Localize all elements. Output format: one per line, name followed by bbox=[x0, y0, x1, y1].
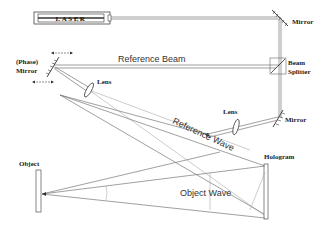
phase-mirror bbox=[46, 57, 59, 77]
object-label: Object bbox=[19, 160, 40, 168]
lens-left-label: Lens bbox=[97, 78, 112, 86]
object-wave-label: Object Wave bbox=[180, 188, 231, 198]
beam-splitter bbox=[270, 58, 286, 74]
phase-mirror-label-2: Mirror bbox=[16, 67, 37, 75]
object-wave-beam bbox=[42, 152, 265, 218]
beam-splitter-label-2: Splitter bbox=[288, 68, 311, 76]
lens-right bbox=[232, 119, 241, 136]
mirror-top bbox=[272, 10, 288, 26]
laser: LASER bbox=[34, 12, 111, 24]
laser-output-beam bbox=[108, 17, 280, 19]
reference-beam-line bbox=[54, 65, 280, 68]
phase-mirror-label-1: (Phase) bbox=[16, 58, 39, 66]
mirror-right-label: Mirror bbox=[285, 116, 306, 124]
reference-beam-label: Reference Beam bbox=[118, 54, 186, 64]
mirror-top-label: Mirror bbox=[292, 18, 313, 26]
lens-right-label: Lens bbox=[223, 108, 238, 116]
vertical-beam bbox=[279, 18, 281, 118]
beam-splitter-label-1: Beam bbox=[288, 59, 305, 67]
laser-label: LASER bbox=[56, 15, 87, 23]
hologram-label: Hologram bbox=[264, 153, 294, 161]
object bbox=[36, 170, 46, 212]
reference-wave-label: Reference Wave bbox=[171, 116, 236, 153]
right-mirror-beam bbox=[208, 117, 278, 137]
holography-diagram: LASER Mirror Beam Splitter Reference Bea… bbox=[0, 0, 321, 228]
